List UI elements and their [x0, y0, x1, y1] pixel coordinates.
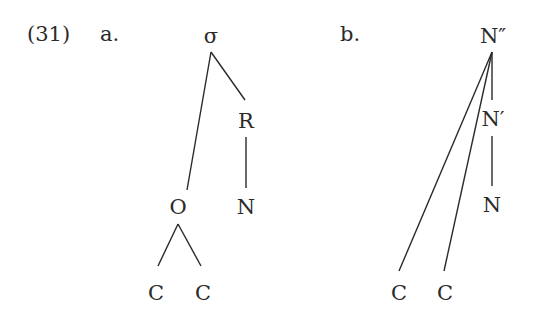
tree-edges — [0, 0, 539, 309]
edge-onset-c1 — [158, 224, 178, 266]
node-c1-a: C — [148, 283, 164, 304]
edge-sigma-rhyme — [211, 52, 245, 100]
node-n-bar: N′ — [481, 109, 504, 130]
node-c1-b: C — [391, 283, 407, 304]
linguistic-tree-figure: (31) a. b. σ R O N C C N″ N′ N C C — [0, 0, 539, 309]
node-n-double-bar: N″ — [480, 26, 506, 47]
node-n-head: N — [483, 195, 501, 216]
node-nucleus: N — [237, 197, 255, 218]
edge-n2-c2 — [444, 52, 492, 271]
node-c2-b: C — [437, 283, 453, 304]
node-onset: O — [169, 197, 186, 218]
node-rhyme: R — [238, 111, 254, 132]
edge-n2-c1 — [399, 52, 492, 271]
node-c2-a: C — [195, 283, 211, 304]
node-sigma: σ — [204, 26, 218, 47]
edge-onset-c2 — [178, 224, 201, 266]
edge-sigma-onset — [187, 52, 211, 190]
